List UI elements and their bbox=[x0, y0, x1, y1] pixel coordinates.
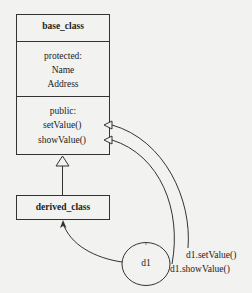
member-name: Name bbox=[52, 65, 75, 76]
setvalue-open-arrow-icon bbox=[104, 121, 112, 129]
method-setvalue: setValue() bbox=[43, 120, 82, 131]
derived-class-name: derived_class bbox=[36, 202, 90, 213]
setvalue-call-curve bbox=[112, 125, 188, 248]
dot bbox=[145, 243, 146, 244]
arrow-head-icon bbox=[60, 220, 67, 228]
base-class-name: base_class bbox=[42, 21, 84, 32]
protected-label: protected: bbox=[44, 51, 82, 62]
call-showvalue-label: d1.showValue() bbox=[170, 264, 230, 275]
showvalue-call-curve bbox=[112, 140, 174, 264]
inheritance-arrow bbox=[56, 156, 69, 195]
showvalue-open-arrow-icon bbox=[104, 136, 112, 144]
method-showvalue: showValue() bbox=[38, 135, 86, 146]
object-d1-label: d1 bbox=[141, 258, 151, 269]
hollow-triangle-icon bbox=[56, 156, 69, 166]
public-label: public: bbox=[50, 106, 76, 117]
call-setvalue-label: d1.setValue() bbox=[186, 250, 236, 261]
member-address: Address bbox=[47, 79, 78, 90]
instance-arrow bbox=[63, 223, 122, 262]
